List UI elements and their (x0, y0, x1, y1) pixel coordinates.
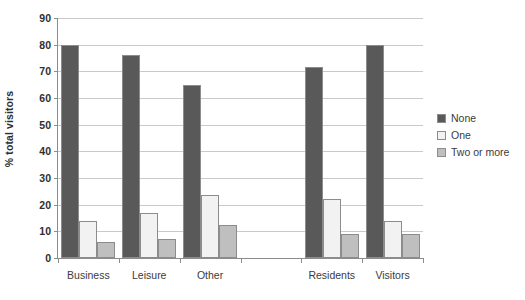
x-tick-label: Residents (308, 270, 355, 281)
legend-item[interactable]: Two or more (437, 144, 509, 161)
x-tick-mark (180, 258, 181, 263)
bar (140, 213, 158, 258)
bar (323, 199, 341, 258)
x-tick-mark (119, 258, 120, 263)
legend-item-label: Two or more (451, 147, 509, 158)
y-tick-label: 60 (39, 93, 51, 104)
x-tick-mark (423, 258, 424, 263)
bar-chart-figure: % total visitors 0102030405060708090 Bus… (0, 0, 525, 300)
bar (366, 45, 384, 258)
legend-item-label: None (451, 113, 476, 124)
y-tick-label: 70 (39, 66, 51, 77)
x-tick-label: Visitors (375, 270, 409, 281)
legend-item[interactable]: None (437, 110, 509, 127)
x-tick-mark (362, 258, 363, 263)
bar (158, 239, 176, 258)
bar (122, 55, 140, 258)
x-tick-label: Other (197, 270, 223, 281)
bar-series-container (58, 18, 423, 258)
bar (341, 234, 359, 258)
y-tick-label: 40 (39, 146, 51, 157)
bar (219, 225, 237, 258)
y-tick-label: 80 (39, 39, 51, 50)
y-tick-label: 90 (39, 13, 51, 24)
x-tick-label: Business (67, 270, 110, 281)
bar (402, 234, 420, 258)
legend-swatch-icon (437, 114, 446, 123)
y-tick-label: 30 (39, 173, 51, 184)
x-tick-mark (301, 258, 302, 263)
bar (97, 242, 115, 258)
legend-swatch-icon (437, 131, 446, 140)
y-tick-label: 0 (45, 253, 51, 264)
y-axis-title-text: % total visitors (3, 91, 15, 167)
legend-item-label: One (451, 130, 471, 141)
y-axis-title: % total visitors (0, 0, 18, 258)
y-tick-label: 20 (39, 199, 51, 210)
x-tick-mark (58, 258, 59, 263)
chart-legend: NoneOneTwo or more (437, 110, 509, 161)
bar (61, 45, 79, 258)
y-tick-label: 10 (39, 226, 51, 237)
legend-swatch-icon (437, 148, 446, 157)
bar (384, 221, 402, 258)
bar (305, 67, 323, 258)
x-tick-mark (241, 258, 242, 263)
y-tick-label: 50 (39, 119, 51, 130)
bar (201, 195, 219, 258)
legend-item[interactable]: One (437, 127, 509, 144)
plot-area: 0102030405060708090 BusinessLeisureOther… (57, 18, 423, 259)
bar (79, 221, 97, 258)
x-tick-label: Leisure (132, 270, 166, 281)
bar (183, 85, 201, 258)
